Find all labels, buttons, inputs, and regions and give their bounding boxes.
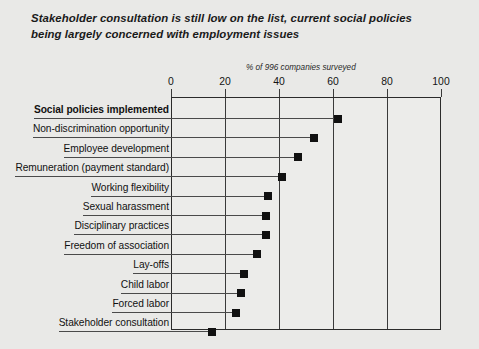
x-tick-label-60: 60	[327, 76, 339, 87]
leader-line	[112, 312, 235, 313]
chart-row: Stakeholder consultation	[0, 317, 479, 336]
chart-row: Employee development	[0, 143, 479, 162]
category-label: Working flexibility	[91, 182, 169, 193]
x-tick-mark-100	[441, 89, 442, 97]
x-tick-mark-40	[279, 89, 280, 97]
chart-figure: % of 996 companies surveyed 0 20 40 60 8…	[0, 56, 479, 349]
leader-line	[64, 254, 257, 255]
leader-line	[133, 273, 244, 274]
data-marker	[262, 212, 270, 220]
leader-line	[64, 157, 298, 158]
leader-line	[74, 234, 265, 235]
page-title: Stakeholder consultation is still low on…	[31, 11, 451, 42]
x-tick-mark-20	[225, 89, 226, 97]
data-marker	[294, 153, 302, 161]
data-marker	[208, 328, 216, 336]
data-marker	[240, 270, 248, 278]
chart-row: Remuneration (payment standard)	[0, 162, 479, 181]
x-tick-mark-60	[333, 89, 334, 97]
category-label: Child labor	[121, 279, 169, 290]
data-marker	[334, 115, 342, 123]
category-label: Non-discrimination opportunity	[33, 123, 169, 134]
chart-row: Freedom of association	[0, 240, 479, 259]
data-marker	[310, 134, 318, 142]
category-label: Freedom of association	[64, 240, 169, 251]
leader-line	[15, 176, 281, 177]
x-tick-label-40: 40	[273, 76, 285, 87]
category-label: Disciplinary practices	[74, 220, 169, 231]
data-marker	[264, 192, 272, 200]
data-marker	[262, 231, 270, 239]
leader-line	[91, 196, 268, 197]
title-line-2: being largely concerned with employment …	[31, 27, 451, 43]
leader-line	[83, 215, 266, 216]
chart-row: Child labor	[0, 279, 479, 298]
chart-row: Working flexibility	[0, 182, 479, 201]
leader-line	[59, 331, 212, 332]
data-marker	[232, 309, 240, 317]
x-tick-label-0: 0	[168, 76, 174, 87]
data-marker	[278, 173, 286, 181]
category-label: Lay-offs	[133, 259, 169, 270]
category-label: Social policies implemented	[34, 104, 169, 115]
leader-line	[34, 118, 338, 119]
category-label: Employee development	[64, 143, 169, 154]
chart-row: Non-discrimination opportunity	[0, 123, 479, 142]
chart-row: Forced labor	[0, 298, 479, 317]
category-label: Forced labor	[112, 298, 169, 309]
category-label: Remuneration (payment standard)	[15, 162, 169, 173]
data-marker	[253, 250, 261, 258]
chart-row: Social policies implemented	[0, 104, 479, 123]
chart-row: Lay-offs	[0, 259, 479, 278]
leader-line	[33, 137, 314, 138]
x-tick-label-80: 80	[381, 76, 393, 87]
chart-row: Disciplinary practices	[0, 220, 479, 239]
x-tick-mark-0	[171, 89, 172, 97]
x-tick-mark-80	[387, 89, 388, 97]
category-label: Sexual harassment	[83, 201, 169, 212]
chart-row: Sexual harassment	[0, 201, 479, 220]
x-tick-label-20: 20	[219, 76, 231, 87]
leader-line	[121, 293, 241, 294]
x-tick-label-100: 100	[432, 76, 449, 87]
category-label: Stakeholder consultation	[59, 317, 169, 328]
data-marker	[237, 289, 245, 297]
title-line-1: Stakeholder consultation is still low on…	[31, 11, 451, 27]
axis-caption: % of 996 companies surveyed	[246, 63, 356, 72]
